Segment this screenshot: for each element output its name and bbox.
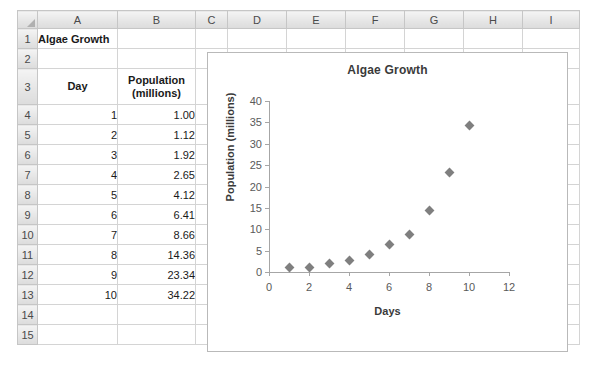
x-axis-tick [389, 272, 390, 276]
column-header-g[interactable]: G [405, 11, 464, 29]
y-axis-tick [265, 187, 269, 188]
row-header-5[interactable]: 5 [18, 125, 38, 145]
row-header-4[interactable]: 4 [18, 105, 38, 125]
column-header-row: A B C D E F G H I [18, 11, 580, 29]
y-axis-tick-label: 30 [232, 144, 262, 145]
row-header-3[interactable]: 3 [18, 69, 38, 105]
cell-a10[interactable]: 7 [38, 225, 118, 245]
y-axis-tick-label: 5 [232, 251, 262, 252]
y-axis-tick [265, 144, 269, 145]
y-axis-tick-label: 35 [232, 122, 262, 123]
row-header-12[interactable]: 12 [18, 265, 38, 285]
x-axis-tick [429, 272, 430, 276]
cell-c1[interactable] [196, 29, 228, 49]
y-axis-tick-label: 40 [232, 101, 262, 102]
row-header-11[interactable]: 11 [18, 245, 38, 265]
cell-b3-line1: Population [118, 74, 195, 87]
cell-b7[interactable]: 2.65 [118, 165, 196, 185]
x-axis-tick-label: 8 [417, 281, 441, 293]
cell-a12[interactable]: 9 [38, 265, 118, 285]
embedded-chart[interactable]: Algae Growth Population (millions) Days … [207, 52, 568, 352]
x-axis-tick-label: 2 [297, 281, 321, 293]
cell-a13[interactable]: 10 [38, 285, 118, 305]
row-header-14[interactable]: 14 [18, 305, 38, 325]
row-header-7[interactable]: 7 [18, 165, 38, 185]
cell-f1[interactable] [346, 29, 405, 49]
x-axis-tick [509, 272, 510, 276]
x-axis-title: Days [208, 305, 567, 317]
column-header-f[interactable]: F [346, 11, 405, 29]
cell-a1[interactable]: Algae Growth [38, 29, 118, 49]
x-axis-tick [469, 272, 470, 276]
y-axis-tick [265, 208, 269, 209]
cell-g1[interactable] [405, 29, 464, 49]
row-header-13[interactable]: 13 [18, 285, 38, 305]
y-axis-tick [265, 251, 269, 252]
column-header-e[interactable]: E [287, 11, 346, 29]
x-axis-tick-label: 6 [377, 281, 401, 293]
cell-b11[interactable]: 14.36 [118, 245, 196, 265]
row-header-9[interactable]: 9 [18, 205, 38, 225]
x-axis-tick [269, 272, 270, 276]
column-header-i[interactable]: I [523, 11, 580, 29]
x-axis-tick-label: 10 [457, 281, 481, 293]
select-all-corner[interactable] [18, 11, 38, 29]
cell-e1[interactable] [287, 29, 346, 49]
cell-b15[interactable] [118, 325, 196, 345]
cell-a8[interactable]: 5 [38, 185, 118, 205]
x-axis-tick [349, 272, 350, 276]
column-header-h[interactable]: H [464, 11, 523, 29]
sheet-row-1: 1 Algae Growth [18, 29, 580, 49]
row-header-6[interactable]: 6 [18, 145, 38, 165]
cell-i1[interactable] [523, 29, 580, 49]
x-axis-tick-label: 0 [257, 281, 281, 293]
cell-h1[interactable] [464, 29, 523, 49]
column-header-a[interactable]: A [38, 11, 118, 29]
y-axis-tick-label: 20 [232, 187, 262, 188]
y-axis-tick [265, 122, 269, 123]
cell-b2[interactable] [118, 49, 196, 69]
row-header-15[interactable]: 15 [18, 325, 38, 345]
x-axis-tick-label: 4 [337, 281, 361, 293]
y-axis-tick-label: 15 [232, 208, 262, 209]
y-axis-tick [265, 229, 269, 230]
cell-b5[interactable]: 1.12 [118, 125, 196, 145]
y-axis-tick [265, 101, 269, 102]
column-header-d[interactable]: D [228, 11, 287, 29]
cell-a3[interactable]: Day [38, 69, 118, 105]
cell-a9[interactable]: 6 [38, 205, 118, 225]
cell-b3-line2: (millions) [118, 87, 195, 100]
cell-a15[interactable] [38, 325, 118, 345]
cell-a6[interactable]: 3 [38, 145, 118, 165]
y-axis-tick [265, 165, 269, 166]
cell-b10[interactable]: 8.66 [118, 225, 196, 245]
row-header-8[interactable]: 8 [18, 185, 38, 205]
chart-title: Algae Growth [208, 63, 567, 77]
cell-b8[interactable]: 4.12 [118, 185, 196, 205]
row-header-1[interactable]: 1 [18, 29, 38, 49]
cell-a4[interactable]: 1 [38, 105, 118, 125]
cell-b1[interactable] [118, 29, 196, 49]
cell-b4[interactable]: 1.00 [118, 105, 196, 125]
cell-b12[interactable]: 23.34 [118, 265, 196, 285]
y-axis-tick-label: 10 [232, 229, 262, 230]
y-axis-tick-label: 0 [232, 272, 262, 273]
cell-b9[interactable]: 6.41 [118, 205, 196, 225]
cell-a14[interactable] [38, 305, 118, 325]
x-axis-tick-label: 12 [497, 281, 521, 293]
cell-b14[interactable] [118, 305, 196, 325]
cell-a5[interactable]: 2 [38, 125, 118, 145]
y-axis-title: Population (millions) [224, 77, 236, 217]
row-header-2[interactable]: 2 [18, 49, 38, 69]
cell-a11[interactable]: 8 [38, 245, 118, 265]
cell-b3[interactable]: Population (millions) [118, 69, 196, 105]
cell-d1[interactable] [228, 29, 287, 49]
cell-a2[interactable] [38, 49, 118, 69]
cell-b13[interactable]: 34.22 [118, 285, 196, 305]
column-header-c[interactable]: C [196, 11, 228, 29]
row-header-10[interactable]: 10 [18, 225, 38, 245]
column-header-b[interactable]: B [118, 11, 196, 29]
cell-b6[interactable]: 1.92 [118, 145, 196, 165]
cell-a7[interactable]: 4 [38, 165, 118, 185]
y-axis-tick-label: 25 [232, 165, 262, 166]
